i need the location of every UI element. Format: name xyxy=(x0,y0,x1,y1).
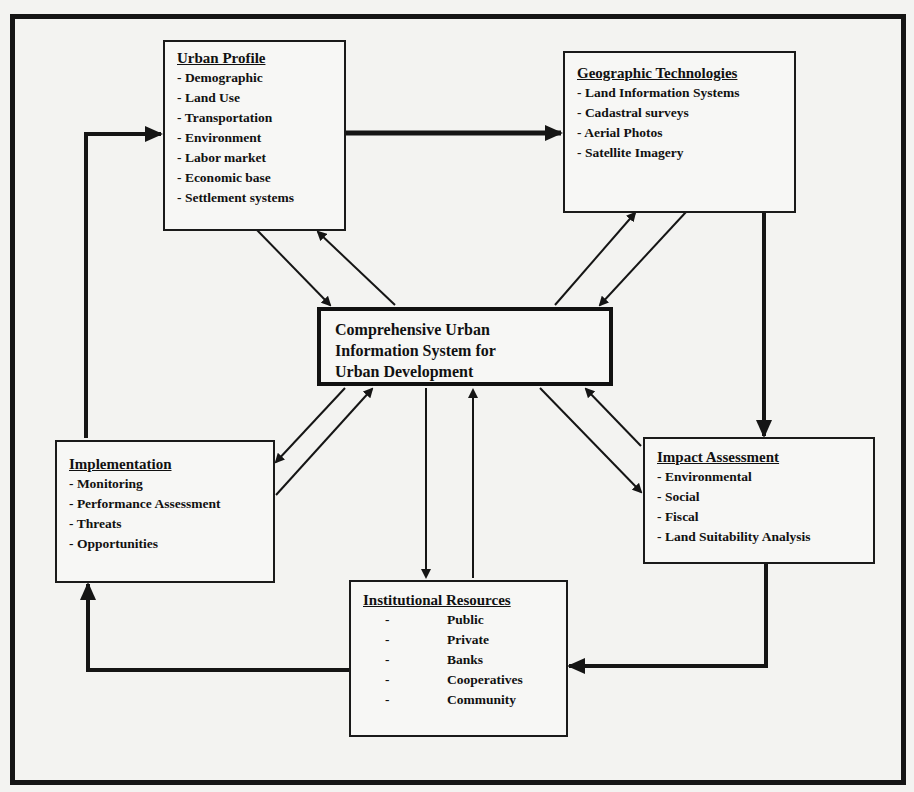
institutional-resources-box: Institutional Resources Public Private B… xyxy=(349,580,568,737)
geographic-technologies-box: Geographic Technologies Land Information… xyxy=(563,51,796,213)
list-item: Public xyxy=(363,610,554,630)
list-item: Labor market xyxy=(177,148,332,168)
list-item: Economic base xyxy=(177,168,332,188)
list-item: Cadastral surveys xyxy=(577,103,782,123)
list-item: Social xyxy=(657,487,861,507)
implementation-box: Implementation Monitoring Performance As… xyxy=(55,440,275,583)
list-item: Monitoring xyxy=(69,474,261,494)
list-item: Satellite Imagery xyxy=(577,143,782,163)
urban-profile-box: Urban Profile Demographic Land Use Trans… xyxy=(163,40,346,231)
implementation-list: Monitoring Performance Assessment Threat… xyxy=(69,474,261,554)
list-item: Performance Assessment xyxy=(69,494,261,514)
list-item: Environment xyxy=(177,128,332,148)
list-item: Land Use xyxy=(177,88,332,108)
geographic-technologies-list: Land Information Systems Cadastral surve… xyxy=(577,83,782,163)
list-item: Transportation xyxy=(177,108,332,128)
central-title-line: Information System for xyxy=(335,340,595,361)
list-item: Land Information Systems xyxy=(577,83,782,103)
list-item: Environmental xyxy=(657,467,861,487)
impact-assessment-title: Impact Assessment xyxy=(657,447,861,467)
list-item: Aerial Photos xyxy=(577,123,782,143)
implementation-title: Implementation xyxy=(69,454,261,474)
list-item: Threats xyxy=(69,514,261,534)
list-item: Fiscal xyxy=(657,507,861,527)
list-item: Private xyxy=(363,630,554,650)
list-item: Demographic xyxy=(177,68,332,88)
list-item: Banks xyxy=(363,650,554,670)
geographic-technologies-title: Geographic Technologies xyxy=(577,63,782,83)
central-system-box: Comprehensive Urban Information System f… xyxy=(317,307,613,386)
institutional-resources-title: Institutional Resources xyxy=(363,590,554,610)
list-item: Community xyxy=(363,690,554,710)
central-title-line: Comprehensive Urban xyxy=(335,319,595,340)
urban-profile-list: Demographic Land Use Transportation Envi… xyxy=(177,68,332,208)
list-item: Cooperatives xyxy=(363,670,554,690)
institutional-resources-list: Public Private Banks Cooperatives Commun… xyxy=(363,610,554,710)
impact-assessment-list: Environmental Social Fiscal Land Suitabi… xyxy=(657,467,861,547)
list-item: Land Suitability Analysis xyxy=(657,527,861,547)
urban-profile-title: Urban Profile xyxy=(177,48,332,68)
list-item: Settlement systems xyxy=(177,188,332,208)
central-title-line: Urban Development xyxy=(335,361,595,382)
impact-assessment-box: Impact Assessment Environmental Social F… xyxy=(643,437,875,564)
list-item: Opportunities xyxy=(69,534,261,554)
